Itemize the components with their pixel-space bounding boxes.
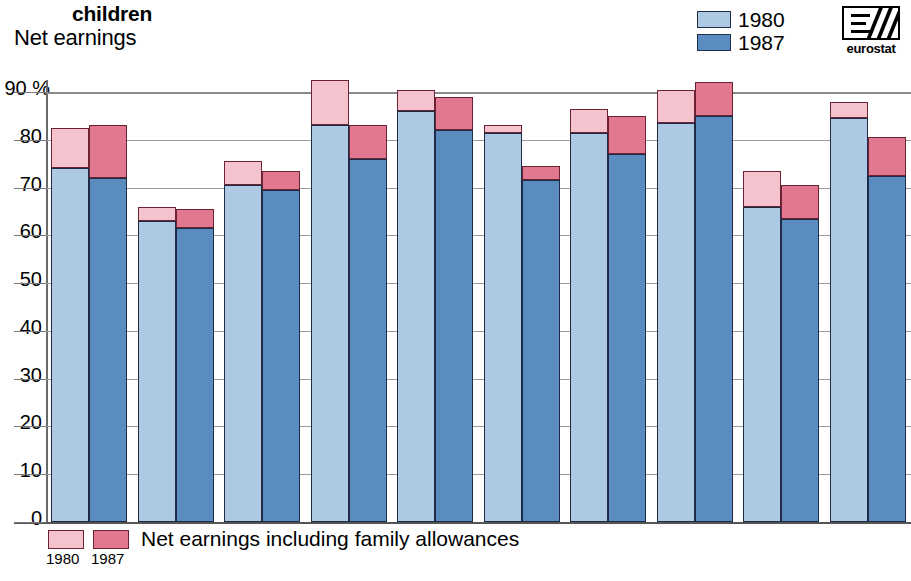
bar-segment-net-earnings <box>89 178 127 522</box>
bar-segment-allowances <box>868 137 906 175</box>
legend-swatch-1980 <box>697 11 731 28</box>
legend-allowance-year-1987: 1987 <box>91 550 124 567</box>
y-tick-20 <box>14 426 46 427</box>
bar-segment-allowances <box>397 90 435 112</box>
bar-group-10-1987 <box>868 137 906 522</box>
bar-segment-net-earnings <box>262 190 300 522</box>
legend-swatch-1987 <box>697 34 731 51</box>
bar-segment-allowances <box>608 116 646 154</box>
y-tick-60 <box>14 235 46 236</box>
bar-segment-net-earnings <box>176 228 214 522</box>
legend-allowance-label: Net earnings including family allowances <box>141 528 519 550</box>
bar-segment-net-earnings <box>868 176 906 522</box>
bar-group-7-1987 <box>608 116 646 522</box>
eurostat-logo: eurostat <box>842 6 900 56</box>
gridline-80 <box>46 140 911 141</box>
y-tick-30 <box>14 379 46 380</box>
bar-segment-allowances <box>695 82 733 115</box>
bar-segment-allowances <box>51 128 89 169</box>
bar-segment-allowances <box>657 90 695 123</box>
legend-label-1980: 1980 <box>738 9 785 30</box>
bar-group-6-1987 <box>522 166 560 522</box>
bar-segment-allowances <box>176 209 214 228</box>
y-tick-10 <box>14 474 46 475</box>
bar-segment-net-earnings <box>608 154 646 522</box>
y-tick-80 <box>14 140 46 141</box>
bar-group-3-1987 <box>262 171 300 522</box>
eurostat-logo-text: eurostat <box>842 41 900 56</box>
bar-group-5-1987 <box>435 97 473 522</box>
bar-group-1-1980 <box>51 128 89 522</box>
legend-swatch-allowance-1980 <box>48 530 84 549</box>
bar-segment-net-earnings <box>830 118 868 522</box>
bar-segment-allowances <box>435 97 473 130</box>
y-tick-label-30: 30 <box>20 365 42 385</box>
y-tick-40 <box>14 331 46 332</box>
chart-subtitle: children <box>72 2 152 26</box>
legend-item-1980: 1980 <box>697 9 817 30</box>
bar-segment-net-earnings <box>781 219 819 522</box>
bar-segment-allowances <box>311 80 349 125</box>
bar-group-9-1980 <box>743 171 781 522</box>
bar-segment-net-earnings <box>349 159 387 522</box>
bar-segment-net-earnings <box>138 221 176 522</box>
y-tick-90 <box>14 92 46 93</box>
bar-group-6-1980 <box>484 125 522 522</box>
bar-group-5-1980 <box>397 90 435 522</box>
bar-segment-allowances <box>570 109 608 133</box>
y-tick-label-0: 0 <box>31 508 42 528</box>
bar-segment-net-earnings <box>397 111 435 522</box>
legend-allowance-year-1980: 1980 <box>46 550 79 567</box>
y-tick-label-70: 70 <box>20 174 42 194</box>
y-tick-label-90: 90 % <box>4 78 50 98</box>
bar-segment-allowances <box>781 185 819 218</box>
bar-group-3-1980 <box>224 161 262 522</box>
bar-segment-allowances <box>262 171 300 190</box>
bar-segment-net-earnings <box>695 116 733 522</box>
y-axis-line <box>46 80 48 522</box>
y-tick-label-20: 20 <box>20 412 42 432</box>
bar-segment-net-earnings <box>435 130 473 522</box>
chart-page: children Net earnings 1980 1987 eurostat… <box>0 0 911 581</box>
y-tick-70 <box>14 188 46 189</box>
bar-group-8-1980 <box>657 90 695 522</box>
y-tick-label-40: 40 <box>20 317 42 337</box>
gridline-90 <box>46 92 911 94</box>
bar-segment-net-earnings <box>743 207 781 522</box>
y-tick-label-10: 10 <box>20 460 42 480</box>
x-axis-line <box>14 522 911 524</box>
bar-group-4-1980 <box>311 80 349 522</box>
y-tick-50 <box>14 283 46 284</box>
bar-group-7-1980 <box>570 109 608 522</box>
bar-segment-allowances <box>349 125 387 158</box>
bar-group-10-1980 <box>830 102 868 522</box>
y-tick-label-60: 60 <box>20 221 42 241</box>
y-axis-labels: 0102030405060708090 % <box>0 60 42 523</box>
bar-group-1-1987 <box>89 125 127 522</box>
bar-segment-allowances <box>522 166 560 180</box>
bar-group-9-1987 <box>781 185 819 522</box>
bar-segment-allowances <box>830 102 868 119</box>
bar-segment-net-earnings <box>570 133 608 522</box>
y-tick-0 <box>14 522 46 523</box>
bar-segment-allowances <box>224 161 262 185</box>
y-tick-label-50: 50 <box>20 269 42 289</box>
eurostat-logo-icon <box>842 6 900 40</box>
legend-item-1987: 1987 <box>697 32 817 53</box>
bar-segment-net-earnings <box>51 168 89 522</box>
legend-allowances: 1980 1987 Net earnings including family … <box>48 528 908 578</box>
bar-group-4-1987 <box>349 125 387 522</box>
bar-segment-allowances <box>484 125 522 132</box>
bar-segment-net-earnings <box>224 185 262 522</box>
legend-label-1987: 1987 <box>738 32 785 53</box>
bar-segment-net-earnings <box>522 180 560 522</box>
bar-group-2-1980 <box>138 207 176 522</box>
bar-segment-net-earnings <box>311 125 349 522</box>
legend-swatch-allowance-1987 <box>93 530 129 549</box>
y-tick-label-80: 80 <box>20 126 42 146</box>
bar-segment-allowances <box>138 207 176 221</box>
bar-segment-allowances <box>743 171 781 207</box>
bar-group-2-1987 <box>176 209 214 522</box>
bar-segment-net-earnings <box>657 123 695 522</box>
legend-years: 1980 1987 <box>697 9 817 55</box>
